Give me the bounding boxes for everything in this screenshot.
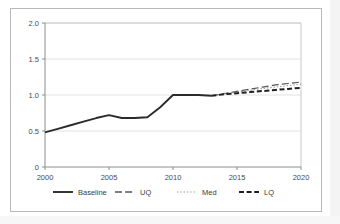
y-axis-tick-labels: 00.51.01.52.0: [29, 19, 39, 172]
legend-label: Baseline: [78, 188, 107, 197]
x-tick-label: 2000: [37, 173, 54, 182]
y-tick-label: 1.0: [29, 91, 39, 100]
legend-item-med: Med: [177, 188, 217, 197]
y-tick-label: 1.5: [29, 55, 39, 64]
page-edge-right: [330, 0, 340, 224]
figure-frame: 00.51.01.52.0 20002005201020152020 Basel…: [10, 8, 322, 212]
x-tick-label: 2015: [229, 173, 246, 182]
y-tick-label: 2.0: [29, 19, 39, 28]
legend-label: Med: [202, 188, 217, 197]
chart-legend: BaselineUQMedLQ: [53, 188, 274, 197]
y-tick-label: 0.5: [29, 127, 39, 136]
x-tick-label: 2020: [293, 173, 310, 182]
legend-item-uq: UQ: [115, 188, 151, 197]
figure-root: 00.51.01.52.0 20002005201020152020 Basel…: [0, 0, 340, 224]
x-tick-label: 2010: [165, 173, 182, 182]
line-chart: 00.51.01.52.0 20002005201020152020 Basel…: [11, 9, 321, 211]
page-edge-bottom: [0, 216, 340, 224]
x-tick-label: 2005: [101, 173, 118, 182]
y-tick-label: 0: [35, 163, 39, 172]
legend-item-lq: LQ: [239, 188, 274, 197]
legend-label: LQ: [264, 188, 274, 197]
legend-item-baseline: Baseline: [53, 188, 107, 197]
x-axis-tick-labels: 20002005201020152020: [37, 173, 310, 182]
legend-label: UQ: [140, 188, 151, 197]
